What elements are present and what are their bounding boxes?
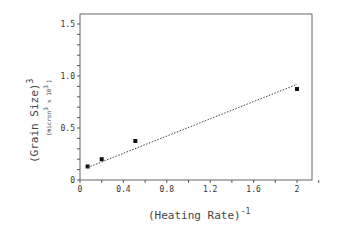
svg-text:0.4: 0.4 [116,185,131,194]
svg-text:(micron3x 103): (micron3x 103) [42,79,52,136]
chart: 00.40.81.21.62 00.51.01.5 (Heating Rate)… [0,0,337,229]
svg-text:1.6: 1.6 [246,185,261,194]
svg-text:0: 0 [78,185,83,194]
plot-frame [80,14,312,180]
y-axis-units: (micron3x 103) [42,79,52,136]
svg-text:1.5: 1.5 [61,20,76,29]
y-axis-title: (Grain Size)3 [26,79,41,163]
svg-text:0.5: 0.5 [61,124,76,133]
data-series [86,84,299,168]
x-axis-title: (Heating Rate)-1 [148,207,251,222]
svg-text:(Grain Size)3: (Grain Size)3 [26,79,41,163]
x-axis-ticks: 00.40.81.21.62 [78,180,319,194]
svg-text:2: 2 [295,185,300,194]
y-axis-ticks: 00.51.01.5 [61,20,80,185]
svg-text:1.2: 1.2 [203,185,218,194]
svg-text:1.0: 1.0 [61,72,76,81]
svg-text:0: 0 [70,176,75,185]
svg-text:0.8: 0.8 [160,185,175,194]
